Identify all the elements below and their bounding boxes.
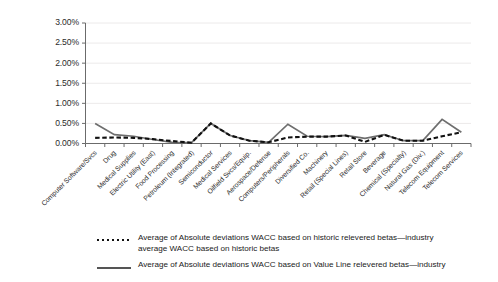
gridlines xyxy=(86,23,472,123)
x-axis-ticks xyxy=(86,144,472,148)
chart-container: 0.00%0.50%1.00%1.50%2.00%2.50%3.00% Comp… xyxy=(0,0,498,282)
legend-label-value-line: Average of Absolute deviations WACC base… xyxy=(138,260,446,271)
dotted-line-swatch xyxy=(97,236,133,245)
solid-line-swatch xyxy=(97,263,133,272)
data-series-group xyxy=(95,119,461,142)
y-axis-ticks xyxy=(82,23,86,144)
legend-entry-historic: Average of Absolute deviations WACC base… xyxy=(97,233,487,254)
legend-label-historic: Average of Absolute deviations WACC base… xyxy=(138,233,434,254)
legend-entry-value-line: Average of Absolute deviations WACC base… xyxy=(97,260,487,272)
